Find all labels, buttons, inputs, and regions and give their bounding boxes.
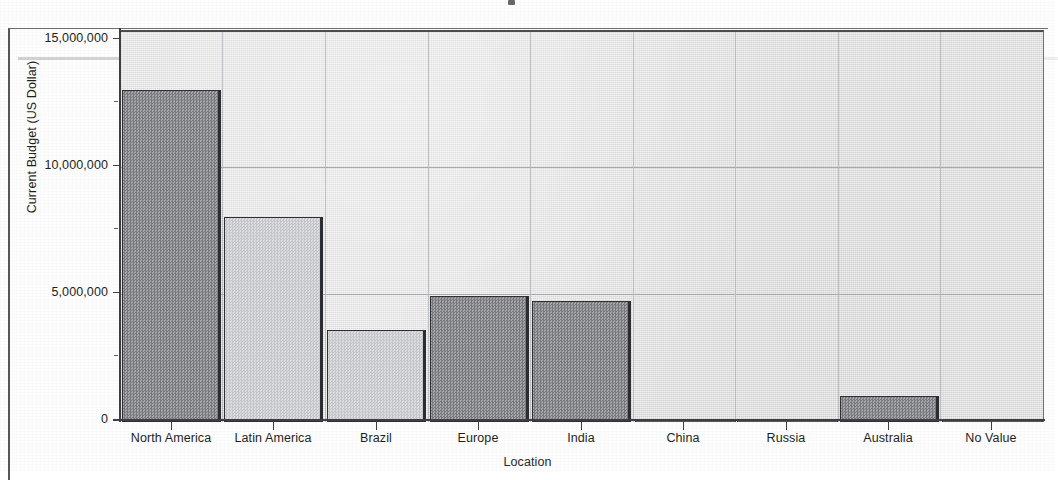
x-tick-label-no-value: No Value [965, 431, 1016, 445]
bar-india[interactable] [532, 301, 631, 422]
bar-north-america[interactable] [122, 90, 221, 422]
x-tick-mark [273, 421, 274, 430]
x-tick-label-brazil: Brazil [360, 431, 392, 445]
gridline-vertical [633, 32, 634, 422]
x-tick-label-latin-america: Latin America [234, 431, 311, 445]
x-tick-mark [991, 421, 992, 430]
scan-artifact-mark [508, 0, 515, 5]
x-tick-mark [376, 421, 377, 430]
y-tick-label: 0 [101, 412, 108, 426]
y-tick-mark-minor [114, 228, 118, 229]
bar-latin-america[interactable] [224, 217, 323, 422]
x-tick-mark [478, 421, 479, 430]
x-tick-label-india: India [567, 431, 595, 445]
bar-no-value[interactable] [942, 421, 1043, 422]
gridline-vertical [222, 32, 223, 422]
y-axis-tick-labels: 15,000,000 10,000,000 5,000,000 0 [0, 0, 108, 471]
y-tick-label: 10,000,000 [44, 158, 108, 172]
x-tick-label-north-america: North America [131, 431, 212, 445]
x-tick-mark [786, 421, 787, 430]
x-tick-label-europe: Europe [458, 431, 499, 445]
x-axis-title: Location [0, 455, 1055, 469]
y-axis-line [119, 28, 121, 422]
plot-area [120, 30, 1044, 422]
y-tick-label: 5,000,000 [51, 285, 108, 299]
x-tick-mark [683, 421, 684, 430]
x-tick-label-russia: Russia [767, 431, 806, 445]
gridline-vertical [838, 32, 839, 422]
gridline-horizontal [120, 167, 1043, 168]
y-tick-mark-minor [114, 101, 118, 102]
x-tick-label-australia: Australia [863, 431, 913, 445]
y-axis-title: Current Budget (US Dollar) [25, 0, 39, 287]
gridline-vertical [530, 32, 531, 422]
gridline-vertical [325, 32, 326, 422]
gridline-vertical [735, 32, 736, 422]
x-tick-mark [888, 421, 889, 430]
x-tick-mark [171, 421, 172, 430]
bar-brazil[interactable] [327, 330, 426, 422]
x-tick-mark [581, 421, 582, 430]
gridline-vertical [428, 32, 429, 422]
y-tick-label: 15,000,000 [44, 31, 108, 45]
x-axis-line [113, 419, 1045, 421]
bar-europe[interactable] [430, 296, 529, 422]
y-tick-mark-minor [114, 355, 118, 356]
gridline-vertical [940, 32, 941, 422]
x-tick-label-china: China [666, 431, 699, 445]
